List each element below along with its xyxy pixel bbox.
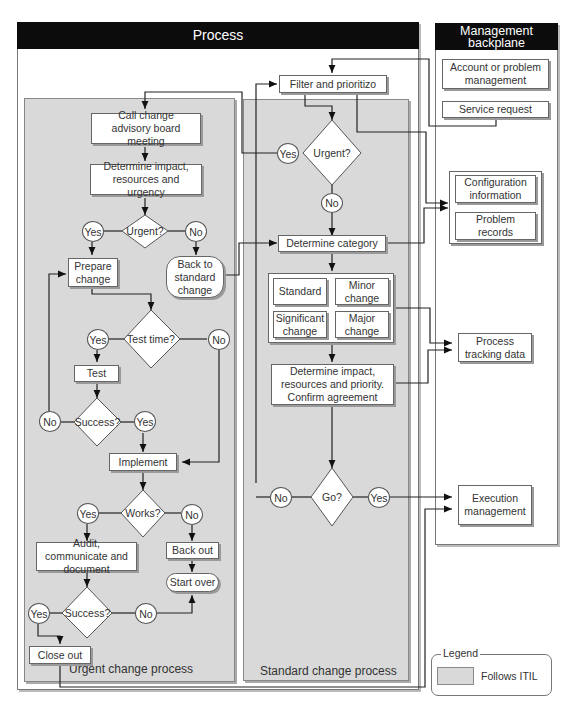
standard-urgent-question: Urgent? — [303, 143, 361, 163]
category-major-change: Major change — [335, 311, 389, 338]
go-question: Go? — [311, 488, 353, 506]
back-out-box: Back out — [166, 542, 219, 559]
category-significant-change: Significant change — [273, 311, 327, 338]
standard-no-circle: No — [321, 193, 343, 213]
go-yes-circle: Yes — [368, 487, 390, 508]
account-problem-mgmt-box: Account or problem management — [442, 59, 549, 89]
legend-swatch — [437, 667, 474, 685]
success2-no-circle: No — [135, 603, 157, 624]
test-time-no-circle: No — [208, 329, 230, 350]
process-tracking-box: Process tracking data — [458, 333, 532, 362]
audit-box: Audit, communicate and document — [36, 542, 137, 571]
legend-follows-itil: Follows ITIL — [481, 670, 538, 682]
execution-mgmt-box: Execution management — [458, 485, 532, 525]
go-no-circle: No — [270, 487, 292, 508]
filter-prioritize-box: Filter and prioritizo — [279, 75, 387, 93]
success2-question: Success? — [60, 604, 115, 622]
start-over-box: Start over — [166, 573, 219, 592]
works-question: Works? — [118, 504, 168, 522]
legend-title: Legend — [441, 647, 480, 659]
close-out-box: Close out — [29, 646, 91, 664]
success2-yes-circle: Yes — [28, 603, 50, 624]
works-yes-circle: Yes — [77, 503, 99, 524]
problem-records-box: Problem records — [455, 212, 536, 240]
works-no-circle: No — [181, 504, 203, 525]
test-box: Test — [74, 365, 119, 382]
test-time-yes-circle: Yes — [87, 329, 109, 350]
urgent-question: Urgent? — [120, 222, 170, 240]
service-request-box: Service request — [442, 101, 549, 118]
category-standard: Standard — [273, 278, 327, 305]
success-no-circle: No — [39, 411, 61, 432]
configuration-info-box: Configuration information — [455, 175, 536, 203]
call-cab-box: Call change advisory board meeting — [91, 113, 201, 144]
prepare-change-box: Prepare change — [68, 258, 118, 287]
determine-category-box: Determine category — [278, 235, 386, 252]
test-time-question: Test time? — [120, 330, 182, 348]
determine-impact-urgency-box: Determine impact, resources and urgency — [90, 164, 202, 195]
category-minor-change: Minor change — [335, 278, 389, 305]
urgent-yes-circle: Yes — [82, 221, 104, 242]
urgent-no-circle: No — [185, 221, 207, 242]
back-to-standard-box: Back to standard change — [166, 256, 224, 298]
standard-yes-circle: Yes — [277, 143, 299, 164]
determine-impact-priority-box: Determine impact, resources and priority… — [271, 364, 394, 405]
success-question: Success? — [70, 413, 125, 431]
success-yes-circle: Yes — [134, 411, 156, 432]
implement-box: Implement — [109, 453, 177, 471]
